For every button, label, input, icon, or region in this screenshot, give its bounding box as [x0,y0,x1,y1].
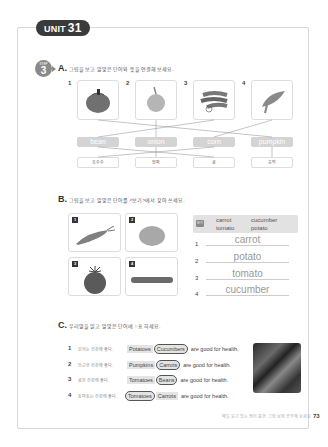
cucumber-image: 4 [125,257,178,296]
answer-field[interactable]: cucumber [206,285,289,296]
image-number: 4 [242,80,245,86]
option-tomatoes[interactable]: Tomatoes [127,376,155,384]
page-footer: 매일 읽고 있는 영어 표현 그림 보며 공부해 보세요73 [222,413,320,419]
unit-tab: UNIT31 [36,20,90,36]
tomato-image: 3 [68,257,121,296]
word-box-corn[interactable]: corn [193,137,235,147]
corn-icon [257,85,287,115]
word-box-pumpkin[interactable]: pumpkin [251,137,293,147]
image-number: 2 [126,80,129,86]
image-number: 1 [68,80,71,86]
carrot-image: 1 [68,213,121,252]
potato-icon [138,224,166,248]
option-beans[interactable]: Beans [156,375,178,385]
answer-field[interactable]: tomato [206,269,289,280]
onion-image [135,80,177,120]
pumpkin-icon [83,85,113,115]
page-number: 73 [313,413,320,419]
unit-label: UNIT [44,24,66,34]
onion-icon [144,85,168,115]
word-bank: 보기 carrot cucumber tomato potato [193,215,298,233]
option-cucumbers[interactable]: Cucumbers [154,344,188,354]
unit-number: 31 [68,21,82,35]
potato-image: 2 [125,213,178,252]
bean-icon [197,87,231,113]
meaning-box[interactable]: 호박 [251,157,293,168]
option-carrots[interactable]: Carrots [156,360,180,370]
carrot-icon [74,226,116,246]
option-potatoes[interactable]: Potatoes [127,345,153,353]
section-a-title: A.그림을 보고 알맞은 단어와 뜻을 연결해 보세요. [58,63,174,73]
vegetables-photo [253,343,301,393]
meaning-box[interactable]: 양파 [135,157,177,168]
sentence-row: Potatoes Cucumbers are good for health. [127,344,239,354]
option-pumpkins[interactable]: Pumpkins [127,361,155,369]
meaning-box[interactable]: 콩 [193,157,235,168]
sentence-row: Tomatoes Beans are good for health. [127,375,228,385]
section-b-title: B.그림을 보고 알맞은 단어를 <보기>에서 찾아 쓰세요. [58,194,185,204]
sentence-row: Tomatoes Carrots are good for health. [125,391,229,401]
pumpkin-image [77,80,119,120]
option-carrots[interactable]: Carrots [156,392,178,400]
image-number: 3 [184,80,187,86]
meaning-box[interactable]: 옥수수 [77,157,119,168]
sentence-row: Pumpkins Carrots are good for health. [127,360,231,370]
corn-image [251,80,293,120]
option-tomatoes[interactable]: Tomatoes [125,391,155,401]
bean-image [193,80,235,120]
tomato-icon [81,265,109,295]
answer-field[interactable]: potato [206,252,289,263]
answer-field[interactable]: carrot [206,235,289,246]
word-box-bean[interactable]: bean [77,137,119,147]
step-badge: STEP 3 [35,60,52,77]
cucumber-icon [129,274,175,286]
section-c-title: C.우리말을 읽고 알맞은 단어에 ○표 하세요. [58,320,160,330]
word-box-onion[interactable]: onion [135,137,177,147]
